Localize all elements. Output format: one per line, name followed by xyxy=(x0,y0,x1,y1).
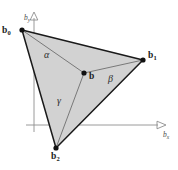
vertex-label-b2: b2 xyxy=(51,152,60,162)
x-axis-label: bx xyxy=(163,131,169,139)
segment-label-beta: β xyxy=(108,74,113,84)
interior-point-label: b xyxy=(89,72,94,82)
barycentric-triangle-figure: b0 b1 b2 b α β γ by bx xyxy=(0,0,178,170)
interior-point-dot xyxy=(81,70,86,75)
x-axis-arrow-icon xyxy=(157,121,166,129)
y-axis-label: by xyxy=(24,14,30,22)
segment-label-alpha: α xyxy=(44,50,49,60)
vertex-label-b0: b0 xyxy=(2,26,11,36)
triangle-shape xyxy=(22,30,143,148)
figure-canvas xyxy=(0,0,178,170)
vertex-dot-b1 xyxy=(140,57,145,62)
segment-label-gamma: γ xyxy=(57,96,61,106)
vertex-dot-b0 xyxy=(19,27,24,32)
vertex-label-b1: b1 xyxy=(148,51,157,61)
vertex-dot-b2 xyxy=(53,145,58,150)
